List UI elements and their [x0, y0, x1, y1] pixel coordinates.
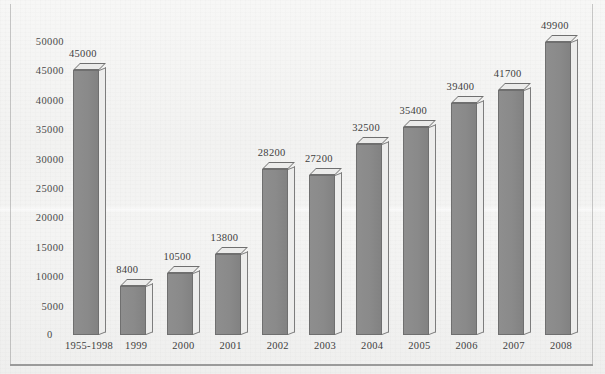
- bar-side-face: [477, 100, 484, 335]
- bar-value-label: 45000: [69, 48, 97, 59]
- scanned-page: 5000100001500020000250003000035000400004…: [0, 0, 605, 374]
- y-axis-tick-label: 30000: [36, 153, 64, 164]
- bar-front-face: [356, 144, 382, 335]
- bar-column[interactable]: 13800: [215, 254, 249, 335]
- bar-value-label: 10500: [163, 251, 191, 262]
- bar-side-face: [524, 87, 531, 335]
- x-axis-tick-label: 2003: [314, 340, 336, 351]
- bar-chart: 5000100001500020000250003000035000400004…: [0, 0, 605, 374]
- y-axis-tick-label: 45000: [36, 65, 64, 76]
- bar-front-face: [545, 42, 571, 335]
- bar-column[interactable]: 45000: [73, 70, 107, 335]
- bar-column[interactable]: 27200: [309, 175, 343, 335]
- bar-side-face: [146, 283, 153, 335]
- bar-value-label: 8400: [116, 264, 138, 275]
- bar-front-face: [403, 127, 429, 335]
- bar-value-label: 41700: [494, 68, 522, 79]
- y-axis-tick-label: 5000: [41, 300, 64, 311]
- x-axis-tick-label: 2006: [455, 340, 477, 351]
- bar-front-face: [215, 254, 241, 335]
- x-axis-tick-label: 1955-1998: [65, 340, 113, 351]
- y-axis-tick-label: 35000: [36, 124, 64, 135]
- bar-side-face: [571, 39, 578, 335]
- bar-front-face: [498, 90, 524, 335]
- bar-front-face: [167, 273, 193, 335]
- bar-side-face: [288, 166, 295, 335]
- bar-value-label: 13800: [211, 232, 239, 243]
- bar-front-face: [262, 169, 288, 335]
- x-axis-tick-label: 2002: [267, 340, 289, 351]
- bar-value-label: 27200: [305, 153, 333, 164]
- bar-side-face: [99, 67, 106, 335]
- y-axis-tick-label: 40000: [36, 94, 64, 105]
- x-axis-tick-label: 2005: [408, 340, 430, 351]
- x-axis-tick-label: 2001: [219, 340, 241, 351]
- bar-side-face: [335, 172, 342, 335]
- x-axis-tick-label: 1999: [125, 340, 147, 351]
- y-axis-tick-label: 50000: [36, 36, 64, 47]
- bar-column[interactable]: 35400: [403, 127, 437, 335]
- y-axis-tick-label-zero: 0: [47, 329, 52, 340]
- bar-column[interactable]: 49900: [545, 42, 579, 335]
- bar-front-face: [451, 103, 477, 335]
- bar-column[interactable]: 41700: [498, 90, 532, 335]
- y-axis-tick-label: 25000: [36, 183, 64, 194]
- y-axis-tick-label: 20000: [36, 212, 64, 223]
- x-axis-tick-label: 2004: [361, 340, 383, 351]
- bar-value-label: 39400: [447, 81, 475, 92]
- x-axis-tick-label: 2000: [172, 340, 194, 351]
- bar-column[interactable]: 39400: [451, 103, 485, 335]
- bar-value-label: 32500: [352, 122, 380, 133]
- bar-side-face: [382, 141, 389, 335]
- bar-value-label: 35400: [399, 105, 427, 116]
- bar-column[interactable]: 28200: [262, 169, 296, 335]
- x-axis-tick-label: 2008: [550, 340, 572, 351]
- bar-side-face: [193, 270, 200, 335]
- bar-front-face: [309, 175, 335, 335]
- bar-side-face: [429, 124, 436, 335]
- y-axis-tick-label: 15000: [36, 241, 64, 252]
- bar-column[interactable]: 8400: [120, 286, 154, 335]
- bar-side-face: [241, 251, 248, 335]
- bar-value-label: 28200: [258, 147, 286, 158]
- y-axis-tick-label: 10000: [36, 271, 64, 282]
- bar-column[interactable]: 10500: [167, 273, 201, 335]
- bar-front-face: [73, 70, 99, 335]
- bar-value-label: 49900: [541, 20, 569, 31]
- bar-column[interactable]: 32500: [356, 144, 390, 335]
- x-axis-tick-label: 2007: [503, 340, 525, 351]
- y-axis: 5000100001500020000250003000035000400004…: [18, 0, 64, 374]
- bar-front-face: [120, 286, 146, 335]
